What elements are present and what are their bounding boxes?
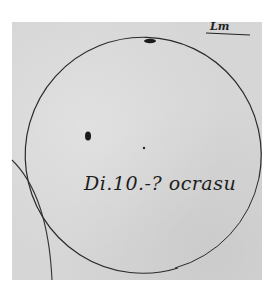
solar-disk-drawing	[0, 0, 276, 295]
corner-note: Lm	[210, 20, 229, 33]
sunspot-left	[85, 132, 91, 141]
corner-note-underline	[206, 33, 250, 35]
sunspot-top	[144, 39, 156, 43]
sunspot-center	[143, 147, 145, 149]
handwritten-caption: Di.10.-? ocrasu	[84, 172, 236, 194]
secondary-arc	[12, 160, 52, 280]
solar-disk-circle	[25, 37, 261, 273]
